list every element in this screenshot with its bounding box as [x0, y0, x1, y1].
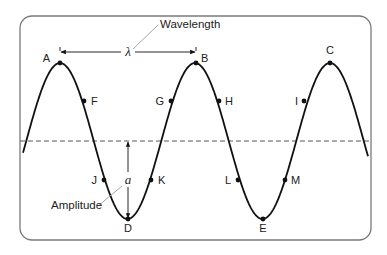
point-i-label: I — [295, 95, 298, 107]
point-c-label: C — [326, 44, 334, 56]
point-f-marker — [82, 99, 87, 104]
point-g-marker — [169, 99, 174, 104]
wavelength-label: Wavelength — [160, 18, 220, 30]
point-j-marker — [102, 178, 107, 183]
point-f-label: F — [91, 95, 98, 107]
point-m-label: M — [291, 174, 300, 186]
point-d-label: D — [124, 222, 132, 234]
lambda-symbol: λ — [124, 44, 131, 59]
point-b-label: B — [201, 52, 208, 64]
point-b-marker — [194, 61, 199, 66]
point-h-label: H — [225, 95, 233, 107]
point-i-marker — [302, 99, 307, 104]
point-k-marker — [149, 178, 154, 183]
point-l-marker — [236, 178, 241, 183]
point-m-marker — [283, 178, 288, 183]
point-d-marker — [126, 217, 131, 222]
amplitude-label: Amplitude — [51, 199, 102, 211]
point-a-marker — [58, 61, 63, 66]
point-a-label: A — [43, 52, 51, 64]
point-j-label: J — [92, 174, 98, 186]
wave-diagram: λ Wavelength a Amplitude ABCDEFGHIJKLM — [0, 0, 387, 255]
point-g-label: G — [155, 95, 164, 107]
point-c-marker — [328, 61, 333, 66]
point-l-label: L — [225, 174, 231, 186]
point-h-marker — [217, 99, 222, 104]
point-e-label: E — [259, 222, 266, 234]
point-k-label: K — [158, 174, 166, 186]
point-e-marker — [261, 217, 266, 222]
amplitude-symbol: a — [125, 172, 132, 187]
